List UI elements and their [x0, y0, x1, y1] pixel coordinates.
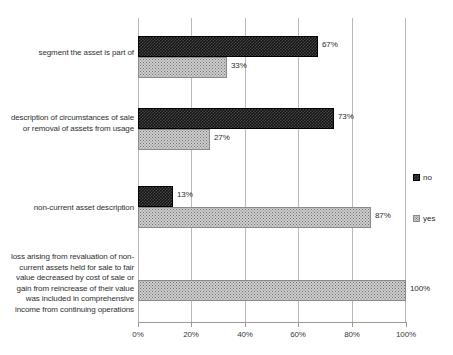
- tick-mark-20: [191, 322, 192, 327]
- legend-label-no: no: [423, 173, 432, 182]
- gridline-60: [298, 18, 299, 322]
- tick-label-20: 20%: [171, 330, 211, 339]
- tick-label-100: 100%: [386, 330, 426, 339]
- gridline-80: [352, 18, 353, 322]
- bar-value-no-1: 67%: [322, 40, 338, 49]
- bar-value-yes-3: 87%: [375, 211, 391, 220]
- bar-yes-3: [138, 207, 371, 228]
- bar-no-2: [138, 108, 334, 129]
- tick-label-40: 40%: [225, 330, 265, 339]
- tick-label-80: 80%: [332, 330, 372, 339]
- tick-mark-60: [298, 322, 299, 327]
- bar-no-3: [138, 186, 173, 207]
- legend-swatch-no-icon: [413, 174, 420, 181]
- horizontal-bar-chart: segment the asset is part of 67% 33% des…: [0, 0, 453, 355]
- legend-item-no: no: [413, 173, 432, 182]
- category-label-2: description of circumstances of sale or …: [6, 113, 134, 134]
- bar-value-yes-4: 100%: [410, 284, 430, 293]
- tick-label-60: 60%: [278, 330, 318, 339]
- bar-value-yes-1: 33%: [231, 61, 247, 70]
- tick-mark-0: [138, 322, 139, 327]
- tick-mark-80: [352, 322, 353, 327]
- bar-value-yes-2: 27%: [214, 133, 230, 142]
- gridline-100: [405, 18, 406, 322]
- x-axis-line: [138, 322, 407, 323]
- tick-mark-40: [245, 322, 246, 327]
- legend-swatch-yes-icon: [413, 215, 420, 222]
- bar-yes-1: [138, 57, 227, 78]
- legend-label-yes: yes: [423, 214, 435, 223]
- category-label-3: non-current asset description: [6, 203, 134, 214]
- bar-yes-4: [138, 280, 406, 301]
- legend-item-yes: yes: [413, 214, 435, 223]
- tick-label-0: 0%: [118, 330, 158, 339]
- tick-mark-100: [406, 322, 407, 327]
- bar-value-no-3: 13%: [177, 190, 193, 199]
- bar-value-no-2: 73%: [338, 112, 354, 121]
- category-label-1: segment the asset is part of: [6, 48, 134, 59]
- category-label-4: loss arising from revaluation of non-cur…: [6, 252, 134, 315]
- bar-no-1: [138, 36, 318, 57]
- bar-yes-2: [138, 129, 210, 150]
